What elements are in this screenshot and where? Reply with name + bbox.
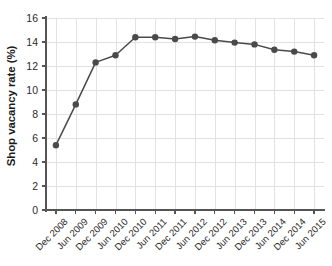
- data-series-layer: [0, 0, 332, 266]
- chart-figure: Shop vacancy rate (%) 0246810121416 Dec …: [0, 0, 332, 266]
- data-point-marker: [92, 59, 98, 65]
- y-axis-tick-mark: [42, 137, 46, 138]
- data-point-marker: [192, 33, 198, 39]
- data-point-marker: [251, 41, 257, 47]
- data-point-marker: [172, 36, 178, 42]
- data-point-marker: [271, 47, 277, 53]
- data-point-marker: [112, 52, 118, 58]
- data-point-marker: [53, 142, 59, 148]
- y-axis-tick-mark: [42, 113, 46, 114]
- series-line-shop-vacancy-rate: [56, 37, 314, 146]
- y-axis-tick-mark: [42, 41, 46, 42]
- data-point-marker: [311, 52, 317, 58]
- data-point-marker: [231, 39, 237, 45]
- y-axis-tick-mark: [42, 161, 46, 162]
- data-point-marker: [212, 37, 218, 43]
- y-axis-tick-mark: [42, 209, 46, 210]
- y-axis-tick-mark: [42, 89, 46, 90]
- y-axis-tick-mark: [42, 17, 46, 18]
- y-axis-tick-mark: [42, 185, 46, 186]
- data-point-marker: [152, 34, 158, 40]
- y-axis-tick-mark: [42, 65, 46, 66]
- data-point-marker: [291, 48, 297, 54]
- data-point-marker: [73, 101, 79, 107]
- data-point-marker: [132, 34, 138, 40]
